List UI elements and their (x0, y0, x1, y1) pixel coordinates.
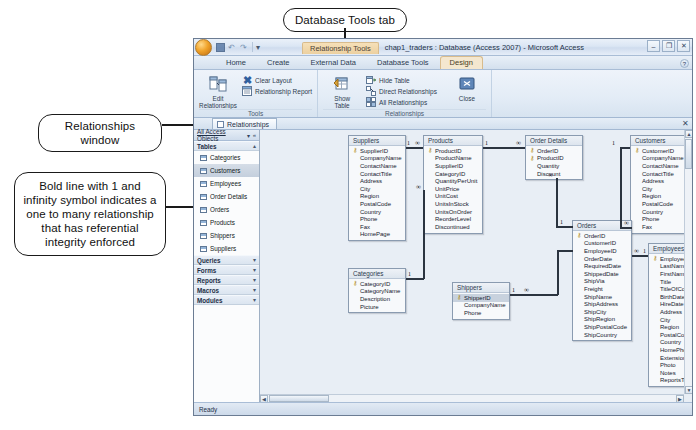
field-row[interactable]: CompanyName (349, 155, 405, 163)
nav-group-macros[interactable]: Macros ▾ (194, 285, 259, 295)
field-row[interactable]: ⚷CustomerID (631, 147, 687, 155)
field-row[interactable]: ShipCountry (573, 331, 631, 339)
field-row[interactable]: City (349, 185, 405, 193)
field-row[interactable]: UnitsInStock (424, 200, 482, 208)
relationship-line-categories-products-h1[interactable] (406, 278, 424, 280)
field-row[interactable]: ShipAddress (573, 300, 631, 308)
relationship-line-shippers-orders-v[interactable] (557, 250, 559, 295)
relationship-line-orderdetails-orders-h[interactable] (556, 226, 573, 228)
relationship-table-categories[interactable]: Categories⚷CategoryIDCategoryNameDescrip… (348, 268, 406, 313)
field-row[interactable]: Phone (453, 309, 509, 317)
relationship-line-shippers-orders-h2[interactable] (557, 250, 573, 252)
field-row[interactable]: PostalCode (631, 200, 687, 208)
sidebar-item-customers[interactable]: Customers (194, 164, 259, 177)
field-row[interactable]: UnitCost (424, 193, 482, 201)
field-row[interactable]: ContactName (349, 162, 405, 170)
relationship-line-employees-orders[interactable] (632, 255, 648, 257)
relationship-table-orders[interactable]: Orders⚷OrderIDCustomerIDEmployeeIDOrderD… (572, 220, 632, 341)
field-row[interactable]: ContactTitle (631, 170, 687, 178)
field-row[interactable]: UnitPrice (424, 185, 482, 193)
tab-home[interactable]: Home (216, 56, 256, 69)
scroll-down-button[interactable]: ▼ (685, 386, 692, 394)
field-row[interactable]: Region (349, 193, 405, 201)
field-row[interactable]: ⚷ProductID (424, 147, 482, 155)
hide-table-button[interactable]: Hide Table (366, 75, 437, 85)
chevron-down-icon[interactable]: ▾ (247, 132, 250, 139)
field-row[interactable]: Description (349, 295, 405, 303)
close-document-button[interactable]: ✕ (682, 119, 689, 128)
field-row[interactable]: Fax (349, 223, 405, 231)
field-row[interactable]: ShipPostalCode (573, 323, 631, 331)
field-row[interactable]: CategoryID (424, 170, 482, 178)
field-row[interactable]: ⚷SupplierID (349, 147, 405, 155)
undo-icon[interactable]: ↶ (228, 43, 237, 52)
field-row[interactable]: UnitsOnOrder (424, 208, 482, 216)
chevron-up-icon[interactable]: ▴ (253, 143, 256, 149)
chevron-down-icon[interactable]: ▾ (253, 287, 256, 293)
chevron-down-icon[interactable]: ▾ (253, 267, 256, 273)
relationship-table-shippers[interactable]: Shippers⚷ShipperIDCompanyNamePhone (452, 282, 510, 320)
field-row[interactable]: ShipCity (573, 308, 631, 316)
tab-create[interactable]: Create (257, 56, 300, 69)
field-row[interactable]: OrderDate (573, 255, 631, 263)
scroll-up-button[interactable]: ▲ (685, 130, 692, 138)
field-row[interactable]: HomePage (349, 231, 405, 239)
scroll-left-button[interactable]: ◀ (260, 395, 268, 402)
horizontal-scrollbar[interactable]: ◀ ▶ (260, 394, 684, 402)
minimize-button[interactable]: – (647, 40, 660, 52)
relationship-report-button[interactable]: Relationship Report (242, 86, 312, 96)
close-button[interactable]: ✕ (677, 40, 690, 52)
vertical-scroll-thumb[interactable] (685, 139, 692, 169)
direct-relationships-button[interactable]: Direct Relationships (366, 86, 437, 96)
nav-group-modules[interactable]: Modules ▾ (194, 295, 259, 305)
field-row[interactable]: RequiredDate (573, 262, 631, 270)
field-row[interactable]: ShipName (573, 293, 631, 301)
field-row[interactable]: CompanyName (453, 302, 509, 310)
edit-relationships-button[interactable]: EditRelationships (199, 72, 237, 109)
field-row[interactable]: ContactTitle (349, 170, 405, 178)
field-row[interactable]: Address (631, 177, 687, 185)
field-row[interactable]: Quantity (526, 162, 582, 170)
field-row[interactable]: QuantityPerUnit (424, 177, 482, 185)
field-row[interactable]: ⚷CategoryID (349, 280, 405, 288)
relationship-table-suppliers[interactable]: Suppliers⚷SupplierIDCompanyNameContactNa… (348, 135, 406, 241)
field-row[interactable]: CategoryName (349, 288, 405, 296)
all-relationships-button[interactable]: All Relationships (366, 97, 437, 107)
relationship-line-customers-orders-h2[interactable] (620, 227, 632, 229)
horizontal-scroll-thumb[interactable] (269, 395, 329, 402)
sidebar-item-suppliers[interactable]: Suppliers (194, 242, 259, 255)
shutter-bar-icon[interactable]: « (253, 132, 256, 139)
relationship-line-products-orderdetails[interactable] (483, 147, 525, 149)
relationship-line-customers-orders-v[interactable] (620, 147, 622, 228)
office-button[interactable] (195, 39, 212, 56)
relationship-line-orderdetails-orders-v[interactable] (556, 178, 558, 226)
field-row[interactable]: ShipVia (573, 278, 631, 286)
field-row[interactable]: Country (349, 208, 405, 216)
tab-design[interactable]: Design (440, 56, 483, 69)
nav-group-tables[interactable]: Tables ▴ (194, 141, 259, 151)
field-row[interactable]: ShipRegion (573, 316, 631, 324)
relationship-table-customers[interactable]: Customers⚷CustomerIDCompanyNameContactNa… (630, 135, 688, 234)
scroll-right-button[interactable]: ▶ (676, 395, 684, 402)
sidebar-item-employees[interactable]: Employees (194, 177, 259, 190)
field-row[interactable]: Phone (631, 215, 687, 223)
navigation-pane-header[interactable]: All Access Objects ▾ « (194, 130, 259, 141)
field-row[interactable]: ShippedDate (573, 270, 631, 278)
field-row[interactable]: Phone (349, 215, 405, 223)
sidebar-item-products[interactable]: Products (194, 216, 259, 229)
field-row[interactable]: SupplierID (424, 162, 482, 170)
nav-group-forms[interactable]: Forms ▾ (194, 265, 259, 275)
chevron-down-icon[interactable]: ▾ (253, 257, 256, 263)
save-icon[interactable] (216, 43, 225, 52)
field-row[interactable]: Picture (349, 303, 405, 311)
field-row[interactable]: ⚷ProductID (526, 155, 582, 163)
field-row[interactable]: PostalCode (349, 200, 405, 208)
field-row[interactable]: ContactName (631, 162, 687, 170)
sidebar-item-shippers[interactable]: Shippers (194, 229, 259, 242)
field-row[interactable]: ⚷ShipperID (453, 294, 509, 302)
clear-layout-button[interactable]: ✖ Clear Layout (242, 75, 312, 85)
chevron-down-icon[interactable]: ▾ (253, 297, 256, 303)
field-row[interactable]: Country (631, 208, 687, 216)
sidebar-item-order-details[interactable]: Order Details (194, 190, 259, 203)
show-table-button[interactable]: ShowTable (323, 72, 361, 109)
